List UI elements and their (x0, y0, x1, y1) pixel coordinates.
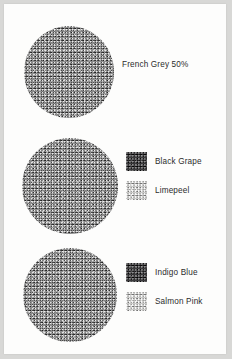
textured-circle-swatch-1[interactable] (24, 26, 114, 118)
sample-label-black-grape: Black Grape (155, 157, 202, 167)
color-swatch-limepeel[interactable] (126, 181, 147, 200)
color-swatch-black-grape[interactable] (126, 152, 147, 171)
scanned-page-frame: French Grey 50% Black Grape Limepeel Ind… (0, 0, 232, 359)
page-sheet: French Grey 50% Black Grape Limepeel Ind… (4, 4, 226, 354)
textured-circle-swatch-3[interactable] (23, 248, 117, 342)
textured-circle-swatch-2[interactable] (22, 138, 118, 234)
sample-label-salmon-pink: Salmon Pink (155, 297, 203, 307)
sample-label-indigo-blue: Indigo Blue (155, 268, 198, 278)
sample-label-limepeel: Limepeel (155, 186, 189, 196)
color-swatch-salmon-pink[interactable] (126, 292, 147, 311)
color-swatch-indigo-blue[interactable] (126, 263, 147, 282)
sample-label-french-grey: French Grey 50% (122, 60, 188, 70)
